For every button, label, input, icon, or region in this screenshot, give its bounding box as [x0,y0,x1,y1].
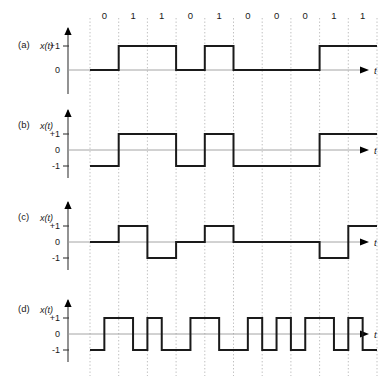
waveform-a [90,46,377,70]
y-axis-arrow-d [64,299,71,307]
bit-label: 0 [274,10,279,21]
t-axis-label-a: t [374,65,377,76]
t-axis-arrow-b [360,146,369,153]
y-tick-label-b-2: -1 [52,161,60,171]
panel-b: (b)x(t)t+10-1 [18,109,377,178]
y-tick-label-c-0: +1 [50,221,60,231]
y-tick-label-b-1: 0 [55,145,60,155]
bit-label: 0 [188,10,193,21]
bit-label: 1 [159,10,164,21]
panel-letter-c: (c) [18,211,29,222]
bit-label: 1 [331,10,336,21]
bit-label: 0 [102,10,107,21]
y-tick-label-b-0: +1 [50,129,60,139]
y-tick-label-c-2: -1 [52,253,60,263]
y-tick-label-a-1: 0 [55,65,60,75]
waveform-svg: (a)x(t)t+10(b)x(t)t+10-1(c)x(t)t+10-1(d)… [0,0,389,382]
y-axis-arrow-c [64,201,71,209]
bit-label: 1 [360,10,365,21]
bit-label: 1 [130,10,135,21]
t-axis-label-b: t [374,145,377,156]
panel-letter-b: (b) [18,119,30,130]
t-axis-arrow-c [360,238,369,245]
line-coding-figure: (a)x(t)t+10(b)x(t)t+10-1(c)x(t)t+10-1(d)… [0,0,389,382]
panel-letter-a: (a) [18,39,30,50]
t-axis-arrow-a [360,66,369,73]
t-axis-label-c: t [374,237,377,248]
y-tick-label-c-1: 0 [55,237,60,247]
panel-letter-d: (d) [18,303,30,314]
bit-label: 0 [303,10,308,21]
y-axis-arrow-a [64,27,71,35]
panel-c: (c)x(t)t+10-1 [18,201,377,270]
panels-layer: (a)x(t)t+10(b)x(t)t+10-1(c)x(t)t+10-1(d)… [18,27,377,362]
y-tick-label-d-0: +1 [50,313,60,323]
t-axis-label-d: t [374,329,377,340]
y-tick-label-a-0: +1 [50,41,60,51]
bit-label: 1 [217,10,222,21]
bit-label: 0 [245,10,250,21]
y-tick-label-d-2: -1 [52,345,60,355]
y-axis-arrow-b [64,109,71,117]
panel-d: (d)x(t)t+10-1 [18,299,377,362]
y-tick-label-d-1: 0 [55,329,60,339]
panel-a: (a)x(t)t+10 [18,27,377,94]
t-axis-arrow-d [360,330,369,337]
